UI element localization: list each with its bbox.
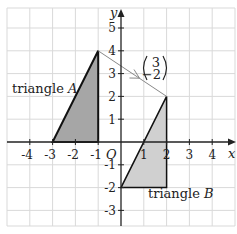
triangle-b-label: triangle B <box>148 186 214 201</box>
y-axis-label: y <box>109 5 118 20</box>
triangle-a-label-name: A <box>67 81 77 96</box>
vector-bottom: −2 <box>142 67 161 82</box>
triangle-a-label: triangle A <box>12 81 77 96</box>
x-tick-label: -2 <box>67 148 79 162</box>
x-tick-label: -4 <box>21 148 33 162</box>
x-tick-label: 4 <box>208 148 216 162</box>
triangle-b-label-prefix: triangle <box>148 186 204 201</box>
y-tick-label: 5 <box>108 21 116 35</box>
y-tick-label: 1 <box>108 113 116 127</box>
x-tick-label: 2 <box>163 148 171 162</box>
y-tick-label: 2 <box>108 90 116 104</box>
y-tick-label: -3 <box>104 204 116 218</box>
x-tick-label: -1 <box>90 148 102 162</box>
origin-label: O <box>106 147 117 162</box>
triangle-a-label-prefix: triangle <box>12 81 68 96</box>
x-tick-labels: -4 -3 -2 -1 1 2 3 4 <box>21 148 216 162</box>
diagram-canvas: -4 -3 -2 -1 1 2 3 4 5 4 3 2 1 -1 -2 -3 y… <box>0 0 237 234</box>
translation-vector: 3 −2 <box>142 55 167 82</box>
x-tick-label: -3 <box>44 148 56 162</box>
x-tick-label: 3 <box>186 148 194 162</box>
x-axis-label: x <box>228 146 236 161</box>
triangle-b-label-name: B <box>203 186 214 201</box>
x-tick-label: 1 <box>140 148 148 162</box>
y-tick-label: 3 <box>108 67 116 81</box>
y-tick-label: 4 <box>108 44 116 58</box>
right-parenthesis-icon <box>163 56 167 80</box>
y-tick-label: -2 <box>104 181 116 195</box>
y-axis-arrow-icon <box>118 9 125 17</box>
